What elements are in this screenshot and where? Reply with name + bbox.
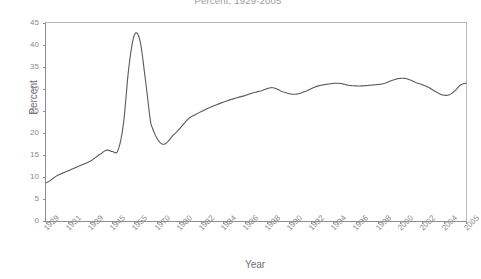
y-tick-mark [43,199,46,200]
chart-title: Percent, 1929-2005 [0,0,476,5]
y-tick-mark [43,67,46,68]
y-tick-label: 5 [19,194,39,203]
y-tick-label: 0 [19,216,39,225]
y-tick-mark [43,89,46,90]
y-tick-label: 45 [19,18,39,27]
y-tick-label: 35 [19,62,39,71]
y-tick-mark [43,133,46,134]
y-tick-label: 20 [19,128,39,137]
y-tick-mark [43,111,46,112]
y-tick-mark [43,155,46,156]
y-tick-mark [43,23,46,24]
y-tick-label: 25 [19,106,39,115]
y-tick-mark [43,177,46,178]
y-tick-label: 10 [19,172,39,181]
x-axis-label: Year [45,259,465,270]
y-tick-label: 40 [19,40,39,49]
y-axis-label: Percent [28,63,39,133]
y-tick-label: 30 [19,84,39,93]
plot-area [45,22,467,222]
series-percent-line [46,23,466,221]
y-tick-mark [43,45,46,46]
y-tick-label: 15 [19,150,39,159]
